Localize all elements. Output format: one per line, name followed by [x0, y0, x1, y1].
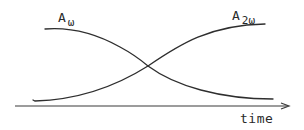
label-a-omega-main: A: [58, 10, 66, 25]
curve-a-2omega: [33, 24, 265, 101]
label-a-2omega: A2ω: [232, 9, 255, 22]
label-a-omega-sub: ω: [68, 16, 75, 29]
label-a-2omega-sub: 2ω: [242, 14, 255, 27]
axis-label-time: time: [240, 112, 273, 125]
label-a-omega: Aω: [58, 11, 74, 24]
diagram-canvas: Aω A2ω time: [0, 0, 304, 130]
curve-a-omega: [45, 29, 273, 99]
label-a-2omega-main: A: [232, 8, 240, 23]
